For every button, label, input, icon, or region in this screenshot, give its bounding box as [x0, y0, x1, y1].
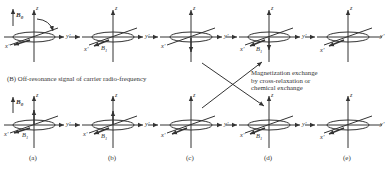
b1-label: B1	[101, 133, 107, 142]
section-b-title: (B) Off-resonance signal of carrier radi…	[7, 76, 146, 83]
x-axis-label: x'	[5, 43, 9, 50]
z-axis-label: z	[193, 92, 195, 98]
bottom-panel-e	[305, 96, 382, 148]
b0-label-top: B0	[16, 12, 23, 20]
z-axis-label: z	[36, 92, 38, 98]
z-axis-label: z	[115, 92, 117, 98]
panel-label-a: (a)	[29, 155, 37, 162]
x-axis-label: x'	[83, 131, 87, 138]
top-row	[4, 9, 382, 62]
y-axis-label: y'	[145, 121, 149, 128]
z-axis-label: z	[271, 92, 273, 98]
top-panel-b	[69, 10, 143, 62]
z-axis-label: z	[350, 5, 352, 11]
panel-label-e: (e)	[343, 155, 351, 162]
x-axis-label: x'	[161, 132, 165, 139]
bottom-panel-c	[148, 96, 222, 148]
x-axis-label: x'	[320, 47, 324, 54]
b1-label: B1	[101, 45, 107, 54]
x-axis-label: x'	[320, 134, 324, 141]
top-panel-e	[305, 10, 382, 62]
x-axis-label: x'	[240, 132, 244, 139]
annotation-line: Magnetization exchange	[251, 69, 318, 77]
y-axis-label: y'	[302, 33, 306, 40]
y-axis-label: y'	[380, 121, 384, 128]
y-axis-label: y'	[66, 121, 70, 128]
top-panel-d	[226, 10, 300, 62]
y-axis-label: y'	[224, 121, 228, 128]
y-axis-label: y'	[66, 33, 70, 40]
z-axis-label: z	[115, 5, 117, 11]
x-axis-label: x'	[4, 131, 8, 138]
b1-label: B1	[256, 133, 262, 142]
panel-label-b: (b)	[108, 155, 116, 162]
y-axis-label: y'	[302, 121, 306, 128]
z-axis-label: z	[350, 92, 352, 98]
y-axis-label: y'	[224, 33, 228, 40]
z-axis-label: z	[36, 5, 38, 11]
annotation-line: chemical exchange	[251, 84, 318, 92]
y-axis-label: y'	[380, 33, 384, 40]
x-axis-label: x'	[84, 46, 88, 53]
nmr-magnetization-diagram: B0 B0 z y' x' z y' x' B1 z y' x' z y' x'…	[0, 0, 388, 172]
rotation-arrow-icon	[37, 19, 53, 31]
bottom-panel-d	[226, 96, 300, 148]
top-panel-c	[148, 10, 222, 62]
exchange-annotation: Magnetization exchange by cross-relaxati…	[251, 69, 318, 92]
z-axis-label: z	[193, 5, 195, 11]
x-axis-label: x'	[240, 46, 244, 53]
y-axis-label: y'	[145, 33, 149, 40]
bottom-row	[4, 96, 382, 148]
z-axis-label: z	[271, 5, 273, 11]
diagram-graphics	[0, 0, 388, 172]
x-axis-label: x'	[161, 43, 165, 50]
b1-label: B1	[256, 46, 262, 55]
b0-label-bottom: B0	[16, 99, 23, 107]
b1-label: B1	[22, 132, 28, 141]
panel-label-c: (c)	[186, 155, 194, 162]
panel-label-d: (d)	[264, 155, 272, 162]
annotation-line: by cross-relaxation or	[251, 77, 318, 85]
